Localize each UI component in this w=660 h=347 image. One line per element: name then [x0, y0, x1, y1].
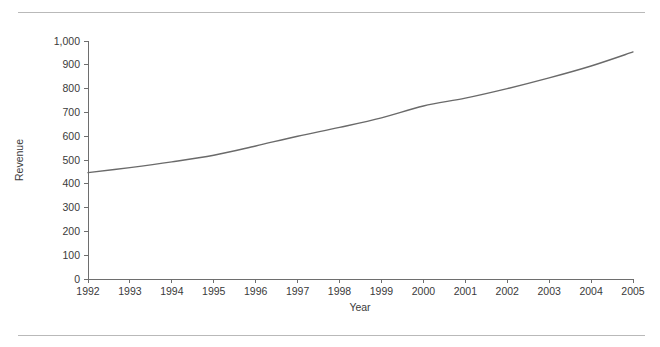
- series-line-revenue: [88, 52, 633, 173]
- x-tick-label: 2001: [454, 285, 478, 297]
- chart-plot-area: 01002003004005006007008009001,000 199219…: [0, 0, 660, 347]
- y-tick-label: 0: [74, 273, 80, 285]
- x-tick-label: 2000: [412, 285, 436, 297]
- y-axis-title: Revenue: [13, 139, 25, 181]
- x-tick-label: 2003: [537, 285, 561, 297]
- y-tick-label: 200: [62, 225, 80, 237]
- x-tick-label: 2002: [496, 285, 520, 297]
- x-tick-label: 1996: [244, 285, 268, 297]
- x-tick-label: 1992: [76, 285, 100, 297]
- x-tick-label: 1997: [286, 285, 310, 297]
- y-tick-label: 600: [62, 130, 80, 142]
- x-tick-label: 2004: [579, 285, 603, 297]
- figure-container: 01002003004005006007008009001,000 199219…: [0, 0, 660, 347]
- y-axis: 01002003004005006007008009001,000: [54, 35, 88, 285]
- x-tick-label: 2005: [621, 285, 645, 297]
- x-tick-label: 1994: [160, 285, 184, 297]
- y-tick-label: 900: [62, 58, 80, 70]
- x-axis: 1992199319941995199619971998199920002001…: [76, 279, 645, 297]
- x-axis-title: Year: [349, 301, 371, 313]
- x-tick-label: 1995: [202, 285, 226, 297]
- y-tick-label: 400: [62, 177, 80, 189]
- y-tick-label: 100: [62, 249, 80, 261]
- x-tick-label: 1998: [328, 285, 352, 297]
- y-tick-label: 1,000: [54, 35, 80, 47]
- y-tick-label: 500: [62, 154, 80, 166]
- bottom-divider-rule: [18, 335, 645, 336]
- x-tick-label: 1993: [118, 285, 142, 297]
- y-tick-label: 300: [62, 201, 80, 213]
- revenue-line-chart: 01002003004005006007008009001,000 199219…: [0, 0, 660, 347]
- series-group: [88, 52, 633, 173]
- y-tick-label: 800: [62, 82, 80, 94]
- y-tick-label: 700: [62, 106, 80, 118]
- x-tick-label: 1999: [370, 285, 394, 297]
